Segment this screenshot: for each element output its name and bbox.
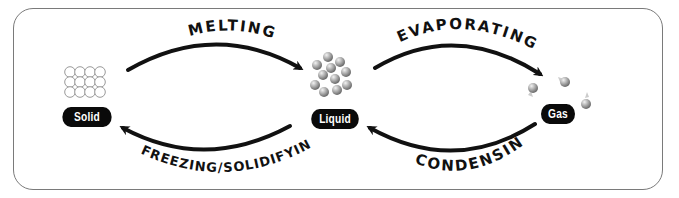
phase-change-diagram: MELTING EVAPORATING FREEZING/SOLIDIFYING… (0, 0, 679, 198)
solid-state-label: Solid (62, 107, 111, 127)
melting-label: MELTING (186, 16, 279, 42)
melting-arrow-icon (128, 44, 300, 70)
solid-particles-icon (65, 67, 106, 98)
gas-state-label: Gas (541, 104, 575, 124)
evaporating-arrow-icon (375, 45, 540, 74)
liquid-state-label: Liquid (311, 109, 359, 129)
liquid-particles-icon (310, 52, 352, 97)
